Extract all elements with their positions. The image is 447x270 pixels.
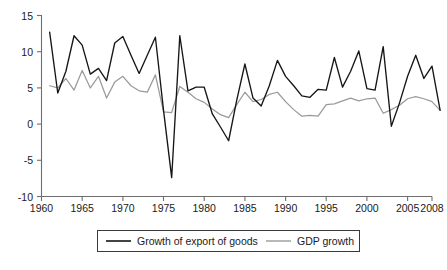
series-line-gdp-growth [50, 71, 440, 118]
x-tick-label-1990: 1990 [274, 202, 298, 214]
x-axis-tick-labels: 1960 1965 1970 1975 1980 1985 1990 1995 … [30, 202, 444, 214]
x-tick-label-1995: 1995 [315, 202, 339, 214]
y-tick-label-10: 10 [21, 46, 33, 58]
x-tick-label-1970: 1970 [111, 202, 135, 214]
x-tick-label-2008: 2008 [420, 202, 444, 214]
y-tick-label-5: 5 [27, 82, 33, 94]
chart-figure: 15 10 5 0 -5 -10 1960 1965 1970 1975 [0, 0, 447, 270]
y-axis-ticks [37, 16, 42, 197]
y-axis-tick-labels: 15 10 5 0 -5 -10 [18, 10, 33, 203]
y-tick-label-neg5: -5 [24, 154, 33, 166]
x-tick-label-1960: 1960 [30, 202, 54, 214]
x-tick-label-2005: 2005 [396, 202, 420, 214]
y-tick-label-0: 0 [27, 118, 33, 130]
x-tick-label-2000: 2000 [355, 202, 379, 214]
line-chart: 15 10 5 0 -5 -10 1960 1965 1970 1975 [0, 0, 447, 270]
x-tick-label-1985: 1985 [233, 202, 257, 214]
x-tick-label-1965: 1965 [71, 202, 95, 214]
chart-legend: Growth of export of goods GDP growth [98, 231, 360, 252]
y-tick-label-15: 15 [21, 10, 33, 22]
x-tick-label-1975: 1975 [152, 202, 176, 214]
x-axis-ticks [42, 197, 433, 202]
y-tick-label-neg10: -10 [18, 191, 33, 203]
legend-label-gdp: GDP growth [297, 235, 354, 247]
legend-label-export: Growth of export of goods [137, 235, 258, 247]
series-line-growth-of-export-of-goods [50, 32, 440, 178]
x-tick-label-1980: 1980 [193, 202, 217, 214]
